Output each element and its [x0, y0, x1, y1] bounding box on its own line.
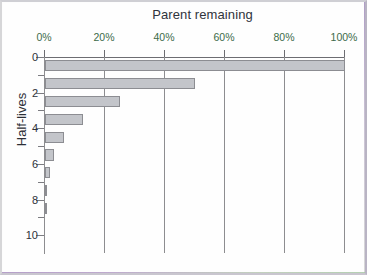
plot-area [44, 57, 344, 253]
x-axis-tick [284, 50, 285, 57]
chart-figure: Parent remaining 0%20%40%60%80%100% 0246… [0, 0, 367, 275]
y-axis-tick-label: 2 [32, 87, 38, 99]
gridline [284, 57, 285, 253]
x-axis-tick-label: 60% [213, 31, 234, 43]
y-axis-tick-label: 8 [32, 194, 38, 206]
x-axis-tick-label: 20% [93, 31, 114, 43]
gridline [344, 57, 345, 253]
bar [45, 149, 54, 160]
x-axis-tick-label: 40% [153, 31, 174, 43]
x-axis-tick [104, 50, 105, 57]
y-axis-tick-label: 4 [32, 122, 38, 134]
gridline [224, 57, 225, 253]
bar [45, 60, 345, 71]
x-axis-tick [224, 50, 225, 57]
bar [45, 78, 195, 89]
y-axis-tick-label: 6 [32, 158, 38, 170]
bar [45, 185, 47, 196]
bar [45, 167, 50, 178]
x-axis-tick-label: 80% [273, 31, 294, 43]
y-axis-tick-label: 0 [32, 51, 38, 63]
x-axis-tick-label: 100% [331, 31, 358, 43]
bar [45, 132, 64, 143]
y-axis-title: Half-lives [14, 60, 29, 180]
bar [45, 114, 83, 125]
x-axis-tick [164, 50, 165, 57]
chart-title: Parent remaining [0, 7, 367, 22]
y-axis-tick-label: 10 [26, 229, 38, 241]
x-axis-tick [344, 50, 345, 57]
bar [45, 96, 120, 107]
bar [45, 203, 47, 214]
x-axis-tick [44, 50, 45, 57]
x-axis-tick-label: 0% [36, 31, 51, 43]
